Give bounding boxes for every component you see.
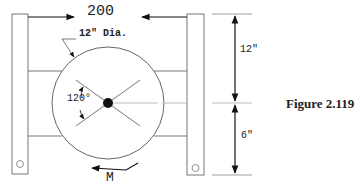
right-support-bar	[187, 14, 204, 175]
diameter-label: 12" Dia.	[79, 28, 127, 39]
figure-caption: Figure 2.119	[286, 96, 354, 112]
moment-arrow	[92, 163, 138, 170]
force-label: 200	[87, 3, 114, 20]
pulley-axle	[103, 98, 113, 108]
dimension-lines	[212, 14, 252, 175]
dimension-lower-label: 6"	[241, 130, 253, 141]
left-support-bar	[12, 14, 28, 174]
diameter-leader	[62, 39, 76, 57]
angle-label: 120°	[67, 93, 91, 104]
left-pin-hole-icon	[17, 161, 24, 168]
moment-label: M	[106, 170, 114, 185]
dimension-upper-label: 12"	[240, 44, 258, 55]
right-pin-hole-icon	[192, 165, 199, 172]
